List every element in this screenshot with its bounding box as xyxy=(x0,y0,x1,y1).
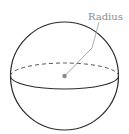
center-point xyxy=(62,74,66,78)
radius-label: Radius xyxy=(88,11,123,22)
radius-line xyxy=(65,48,93,76)
sphere-diagram: Radius xyxy=(0,0,129,134)
label-leader-line xyxy=(92,22,99,48)
